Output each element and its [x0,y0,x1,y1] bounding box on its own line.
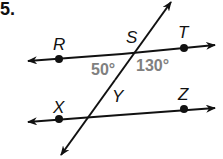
label-y: Y [112,88,123,105]
line-rt-left [28,54,122,61]
angle-50: 50° [91,62,115,78]
transversal-down [61,80,115,155]
label-z: Z [178,86,188,103]
label-s: S [126,29,137,46]
label-t: T [178,24,188,41]
point-t [180,44,188,52]
label-r: R [53,36,65,53]
parallel-lines-diagram [0,0,223,159]
line-xz [120,108,215,115]
angle-130: 130° [136,58,169,74]
point-z [180,105,188,113]
label-x: X [53,99,64,116]
line-xz-left [28,115,120,122]
point-r [55,55,63,63]
